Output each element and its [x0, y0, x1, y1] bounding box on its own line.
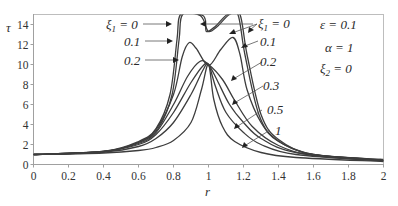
x-tick-label: 1.8 [341, 170, 356, 182]
x-axis-title: r [205, 184, 211, 199]
y-tick-label: 8 [23, 79, 29, 91]
y-axis-title: τ [6, 20, 12, 35]
x-tick-label: 0.6 [131, 170, 146, 182]
y-tick-label: 4 [23, 119, 29, 131]
y-tick-label: 2 [23, 139, 29, 151]
x-tick-label: 1.4 [271, 170, 286, 182]
label-right-0-5: 0.5 [267, 102, 284, 117]
x-tick-label: 0.8 [166, 170, 181, 182]
chart: 02468101214 00.20.40.60.811.21.41.61.82 … [0, 0, 398, 206]
param-epsilon: ε = 0.1 [320, 17, 357, 32]
label-right-0-1: 0.1 [260, 34, 276, 49]
y-tick-label: 0 [23, 159, 29, 171]
label-right-xi1-0: ξ1 = 0 [258, 16, 290, 33]
x-tick-label: 1 [206, 170, 212, 182]
label-left-xi1-0: ξ1 = 0 [106, 17, 138, 34]
label-left-0-1: 0.1 [124, 34, 140, 49]
x-tick-label: 0.2 [61, 170, 76, 182]
x-tick-label: 1.6 [306, 170, 321, 182]
y-tick-label: 14 [17, 19, 29, 31]
x-tick-label: 2 [381, 170, 387, 182]
x-tick-label: 0.4 [96, 170, 111, 182]
label-right-1: 1 [275, 123, 282, 138]
x-tick-label: 1.2 [236, 170, 251, 182]
label-left-0-2: 0.2 [124, 53, 141, 68]
y-tick-label: 10 [17, 59, 29, 71]
param-alpha: α = 1 [325, 40, 354, 55]
label-right-0-2: 0.2 [260, 54, 277, 69]
x-axis-ticks: 00.20.40.60.811.21.41.61.82 [31, 165, 387, 182]
x-tick-label: 0 [31, 170, 37, 182]
label-right-0-3: 0.3 [263, 78, 280, 93]
y-axis-ticks: 02468101214 [17, 19, 34, 171]
y-tick-label: 6 [23, 99, 29, 111]
param-xi2: ξ2 = 0 [320, 61, 352, 78]
plot-area [34, 15, 384, 165]
y-tick-label: 12 [17, 39, 29, 51]
